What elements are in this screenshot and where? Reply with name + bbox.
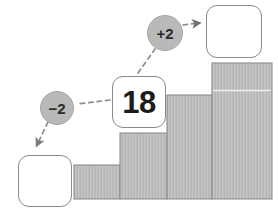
- connector-card-to-minus: [77, 100, 110, 104]
- card-result-decrease[interactable]: [18, 155, 72, 207]
- bar-2: [120, 133, 167, 199]
- bar-4: [212, 63, 272, 199]
- connector-card-to-plus: [138, 49, 155, 73]
- bar-1: [74, 165, 120, 199]
- operator-plus-two-label: +2: [156, 26, 173, 41]
- connector-plus-to-card: [183, 23, 199, 25]
- card-result-increase[interactable]: [206, 5, 262, 58]
- operator-minus-two-label: −2: [48, 101, 65, 116]
- diagram-canvas: 18 −2 +2: [0, 0, 278, 214]
- connector-minus-to-card: [37, 122, 48, 145]
- card-start-value[interactable]: 18: [112, 76, 166, 128]
- operator-plus-two[interactable]: +2: [147, 15, 183, 51]
- bar-3: [167, 95, 212, 199]
- card-start-value-text: 18: [122, 87, 155, 118]
- bar-chart: [74, 63, 272, 199]
- operator-minus-two[interactable]: −2: [40, 91, 74, 125]
